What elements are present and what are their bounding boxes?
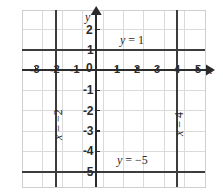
equation-label-y-equals-1: y = 1 <box>120 34 144 46</box>
equation-rest-x4: = 4 <box>172 112 186 131</box>
equation-rest-yneg5: = −5 <box>122 153 148 167</box>
y-tick-label-neg3: -3 <box>83 125 93 137</box>
x-tick-label-neg1: -1 <box>70 64 79 75</box>
x-tick-label-4: 4 <box>174 64 180 75</box>
x-tick-label-3: 3 <box>154 64 160 75</box>
x-tick-label-5: 5 <box>195 64 201 75</box>
plot-canvas <box>0 0 223 195</box>
x-axis-name: x <box>207 64 212 76</box>
y-tick-label-neg4: -4 <box>83 145 93 157</box>
equation-rest-y1: = 1 <box>125 33 144 47</box>
equation-var-x4: x <box>172 131 186 136</box>
y-axis-name: y <box>85 11 90 23</box>
equation-rest-xneg2: = −2 <box>51 109 65 135</box>
equation-var-xneg2: x <box>51 135 65 140</box>
x-tick-label-1: 1 <box>114 64 120 75</box>
y-tick-label-neg5: -5 <box>83 166 93 178</box>
equation-label-x-equals-4: x = 4 <box>173 112 185 136</box>
equation-label-y-equals-neg5: y = −5 <box>117 154 148 166</box>
y-tick-label-1: 1 <box>87 44 93 56</box>
x-tick-label-neg2: -2 <box>50 64 59 75</box>
y-tick-label-2: 2 <box>86 24 92 36</box>
origin-tick-label: 0 <box>86 62 92 74</box>
equation-label-x-equals-neg2: x = −2 <box>52 109 64 140</box>
coordinate-graph-figure: -3 -2 -1 0 1 2 3 4 5 2 1 -1 -2 -3 -4 -5 … <box>0 0 223 195</box>
y-tick-label-neg1: -1 <box>83 84 93 96</box>
y-tick-label-neg2: -2 <box>83 105 93 117</box>
x-tick-label-2: 2 <box>134 64 140 75</box>
x-tick-label-neg3: -3 <box>30 64 39 75</box>
